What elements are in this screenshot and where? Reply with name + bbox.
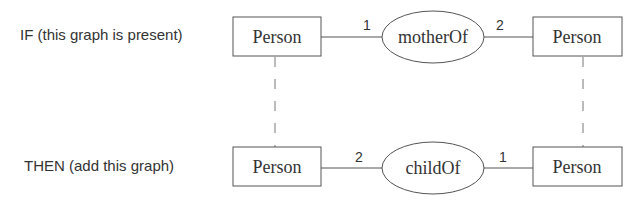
rule-diagram: Person motherOf Person 1 2 Person childO… (0, 0, 644, 207)
then-relation-text: childOf (406, 158, 461, 178)
if-relation-text: motherOf (398, 27, 468, 47)
then-left-person-text: Person (253, 157, 302, 177)
if-graph: Person motherOf Person 1 2 (233, 11, 622, 63)
if-right-person-text: Person (553, 27, 602, 47)
then-graph: Person childOf Person 2 1 (233, 142, 622, 194)
then-right-person-text: Person (553, 157, 602, 177)
if-right-edge-label: 2 (496, 17, 504, 33)
then-right-edge-label: 1 (499, 149, 507, 165)
then-left-edge-label: 2 (355, 149, 363, 165)
if-left-person-text: Person (253, 27, 302, 47)
if-left-edge-label: 1 (363, 17, 371, 33)
